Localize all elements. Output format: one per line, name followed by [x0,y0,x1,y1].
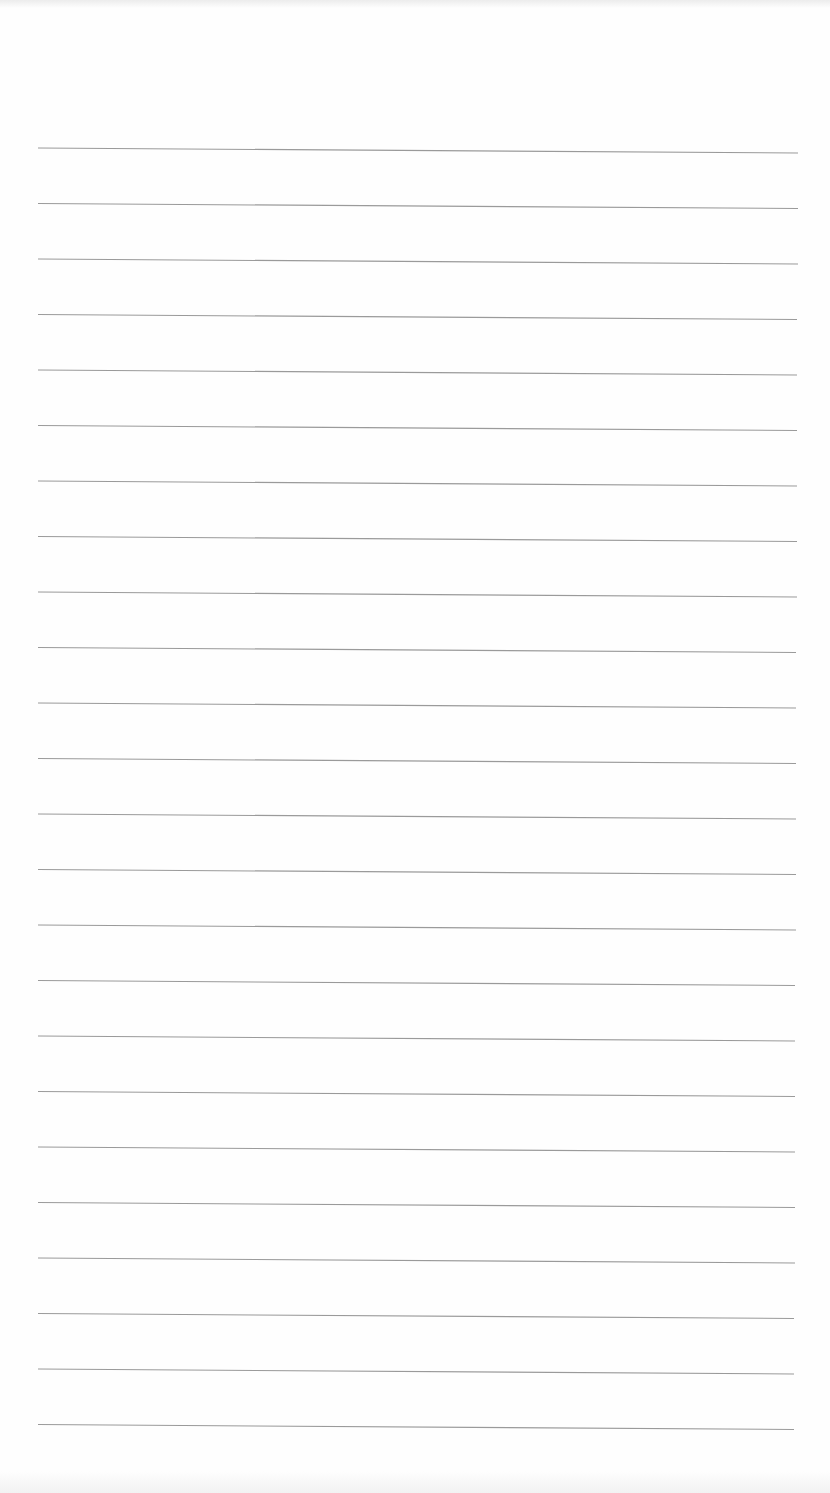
ruled-line [38,315,797,320]
ruled-line [38,814,796,819]
ruled-line [38,1258,795,1263]
ruled-line [38,925,796,930]
ruled-line [38,259,798,264]
ruled-line [38,981,795,986]
ruled-lines [0,0,830,1493]
ruled-line [38,1369,794,1374]
ruled-line [38,537,797,542]
ruled-line [38,648,796,653]
ruled-line [38,1425,794,1430]
ruled-line [38,370,797,375]
ruled-line [38,1036,795,1041]
ruled-line [38,703,796,708]
lined-paper-page [0,0,830,1493]
ruled-line [38,426,797,431]
ruled-line [38,148,798,153]
ruled-line [38,870,796,875]
ruled-line [38,1314,794,1319]
ruled-line [38,204,798,209]
scan-bottom-edge [0,1471,830,1493]
ruled-line [38,1203,795,1208]
ruled-line [38,1147,795,1152]
ruled-line [38,1092,795,1097]
ruled-line [38,481,797,486]
ruled-line [38,759,796,764]
ruled-line [38,592,797,597]
